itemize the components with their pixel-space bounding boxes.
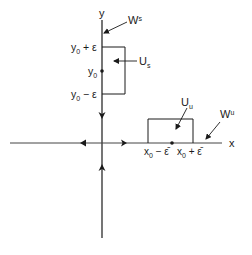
us-rectangle	[102, 47, 125, 94]
diagram-canvas: y x Ws Wu Us Uu y0 + ε y0 y0 − ε x0 − ε̄…	[0, 0, 252, 255]
ws-label: Ws	[128, 14, 142, 26]
y-axis-label: y	[99, 7, 105, 19]
y0-label: y0	[88, 65, 97, 79]
y0-minus-epsilon-label: y0 − ε	[71, 88, 97, 102]
stable-neighborhood-box	[100, 47, 137, 94]
unstable-neighborhood-box	[148, 108, 193, 145]
wu-label: Wu	[220, 108, 234, 120]
wu-pointer-arrow-icon	[206, 122, 220, 139]
ws-pointer-arrow-icon	[104, 22, 127, 33]
x0-minus-epsilon-bar-label: x0 − ε̄	[144, 146, 171, 159]
x0-plus-epsilon-bar-label: x0 + ε̄	[177, 146, 204, 159]
x0-point	[170, 141, 174, 145]
y-axis	[99, 20, 106, 238]
uu-label: Uu	[181, 96, 193, 110]
flow-arrow-left-icon	[80, 140, 86, 147]
uu-rectangle	[148, 119, 193, 143]
y0-point	[100, 69, 104, 73]
x-axis-label: x	[229, 137, 235, 149]
us-label: Us	[139, 55, 151, 69]
y0-plus-epsilon-label: y0 + ε	[71, 41, 97, 55]
